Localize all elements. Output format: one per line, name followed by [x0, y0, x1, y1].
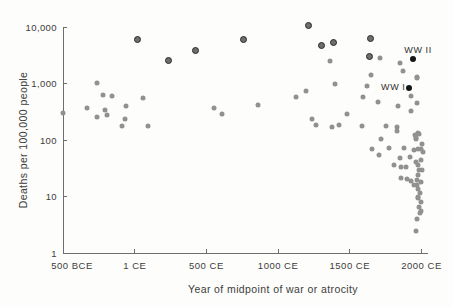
data-point [329, 124, 334, 129]
data-point [328, 59, 333, 64]
y-tick-mark [63, 140, 67, 141]
data-point [368, 72, 373, 77]
data-point [384, 123, 389, 128]
data-point [294, 95, 299, 100]
data-point [146, 123, 151, 128]
data-point [419, 180, 424, 185]
data-point [386, 145, 391, 150]
data-point [61, 111, 66, 116]
y-tick-label: 1 [0, 248, 57, 259]
x-tick-label: 500 BCE [42, 260, 102, 271]
data-point [366, 53, 373, 60]
data-point [400, 69, 405, 74]
data-point [134, 36, 141, 43]
data-point [370, 147, 375, 152]
data-point [414, 217, 419, 222]
data-point [337, 122, 342, 127]
data-point [376, 99, 381, 104]
data-point [417, 132, 422, 137]
x-tick-label: 1000 CE [248, 260, 308, 271]
data-point [85, 106, 90, 111]
data-point [165, 57, 172, 64]
data-point [305, 22, 312, 29]
y-tick-mark [63, 253, 67, 254]
data-point [344, 112, 349, 117]
data-point [415, 76, 420, 81]
x-tick-label: 2000 CE [392, 260, 452, 271]
annotation-label: WW I [381, 82, 405, 92]
data-point [418, 209, 423, 214]
data-point [122, 116, 127, 121]
data-point [95, 80, 100, 85]
data-point [256, 103, 261, 108]
data-point [119, 123, 124, 128]
data-point [409, 94, 414, 99]
y-axis-title: Deaths per 100,000 people [17, 72, 29, 209]
data-point [365, 83, 370, 88]
data-point [420, 167, 425, 172]
data-point [211, 106, 216, 111]
data-point [416, 173, 421, 178]
x-tick-mark [278, 249, 279, 253]
data-point [359, 123, 364, 128]
data-point [240, 36, 247, 43]
data-point [377, 56, 382, 61]
data-point [314, 123, 319, 128]
data-point [414, 100, 419, 105]
world-war-data-point [406, 85, 412, 91]
x-tick-label: 500 CE [176, 260, 236, 271]
x-tick-mark [134, 249, 135, 253]
data-point [378, 137, 383, 142]
y-tick-mark [63, 83, 67, 84]
data-point [309, 116, 314, 121]
y-tick-mark [63, 196, 67, 197]
data-point [419, 157, 424, 162]
data-point [413, 228, 418, 233]
data-point [397, 156, 402, 161]
annotation-label: WW II [404, 45, 432, 55]
data-point [418, 191, 423, 196]
x-tick-mark [206, 249, 207, 253]
x-tick-mark [349, 249, 350, 253]
data-point [396, 103, 401, 108]
data-point [105, 112, 110, 117]
x-tick-mark [421, 249, 422, 253]
data-point [421, 149, 426, 154]
data-point [419, 142, 424, 147]
data-point [392, 162, 397, 167]
data-point [360, 94, 365, 99]
world-war-data-point [410, 56, 416, 62]
data-point [419, 200, 424, 205]
data-point [330, 39, 337, 46]
data-point [333, 82, 338, 87]
data-point [401, 146, 406, 151]
data-point [304, 88, 309, 93]
data-point [395, 129, 400, 134]
data-point [414, 137, 419, 142]
data-point [367, 35, 374, 42]
data-point [408, 155, 413, 160]
y-tick-mark [63, 27, 67, 28]
x-axis-title: Year of midpoint of war or atrocity [188, 283, 358, 295]
y-tick-label: 10,000 [0, 22, 57, 33]
data-point [408, 108, 413, 113]
data-point [397, 61, 402, 66]
x-tick-label: 1500 CE [320, 260, 380, 271]
data-point [95, 115, 100, 120]
data-point [124, 104, 129, 109]
x-tick-label: 1 CE [105, 260, 165, 271]
data-point [109, 93, 114, 98]
scatter-figure: 10,0001,000100101500 BCE1 CE500 CE1000 C… [0, 0, 453, 307]
plot-area: 10,0001,000100101500 BCE1 CE500 CE1000 C… [0, 0, 453, 307]
data-point [220, 112, 225, 117]
data-point [141, 95, 146, 100]
data-point [377, 152, 382, 157]
data-point [318, 42, 325, 49]
x-axis-line [63, 253, 428, 254]
data-point [101, 92, 106, 97]
data-point [399, 175, 404, 180]
data-point [403, 164, 408, 169]
data-point [192, 47, 199, 54]
